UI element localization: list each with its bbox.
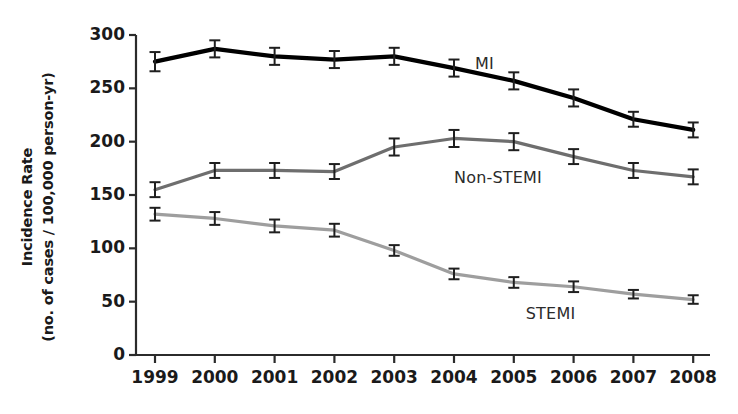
x-tick-label: 2004 xyxy=(424,367,484,387)
series-mi xyxy=(150,40,699,137)
y-tick-label: 200 xyxy=(90,131,126,151)
x-tick-label: 2005 xyxy=(484,367,544,387)
y-tick-label: 150 xyxy=(90,184,126,204)
x-tick-label: 2001 xyxy=(245,367,305,387)
y-tick-label: 250 xyxy=(90,77,126,97)
series-label-mi: MI xyxy=(475,54,494,73)
x-tick-label: 2003 xyxy=(364,367,424,387)
x-tick-label: 2002 xyxy=(304,367,364,387)
x-tick-label: 2008 xyxy=(663,367,723,387)
y-tick-label: 100 xyxy=(90,237,126,257)
series-label-stemi: STEMI xyxy=(526,304,576,323)
series-line xyxy=(155,214,693,299)
chart-figure: Incidence Rate (no. of cases / 100,000 p… xyxy=(0,0,738,414)
x-tick-label: 2006 xyxy=(544,367,604,387)
series-non-stemi xyxy=(150,130,699,197)
series-line xyxy=(155,49,693,130)
series-line xyxy=(155,138,693,189)
y-tick-label: 300 xyxy=(90,24,126,44)
y-tick-label: 0 xyxy=(113,344,125,364)
plot-area xyxy=(0,0,738,414)
series-stemi xyxy=(150,208,699,304)
x-tick-label: 2007 xyxy=(603,367,663,387)
x-tick-label: 2000 xyxy=(185,367,245,387)
y-tick-label: 50 xyxy=(101,291,125,311)
series-label-non-stemi: Non-STEMI xyxy=(454,168,542,187)
x-tick-label: 1999 xyxy=(125,367,185,387)
